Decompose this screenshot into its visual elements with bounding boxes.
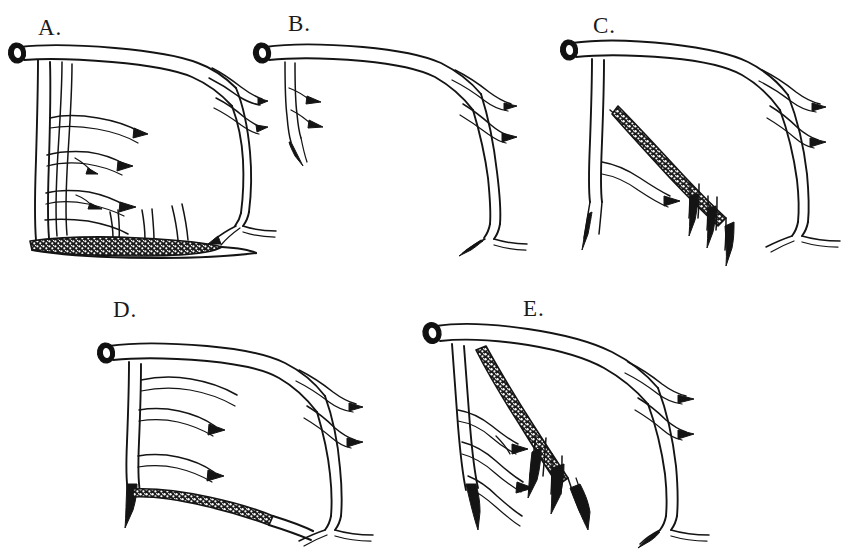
stipple-band-e — [476, 346, 568, 485]
panel-c: C. — [550, 0, 862, 285]
panel-d: D. — [85, 288, 395, 549]
stipple-band-d — [133, 489, 273, 525]
panel-e: E. — [400, 288, 730, 549]
figure-root: A. — [0, 0, 862, 549]
panel-b: B. — [245, 0, 545, 285]
panel-e-artwork — [400, 288, 730, 549]
panel-c-artwork — [550, 0, 862, 285]
panel-b-artwork — [245, 0, 545, 285]
panel-d-artwork — [85, 288, 395, 549]
